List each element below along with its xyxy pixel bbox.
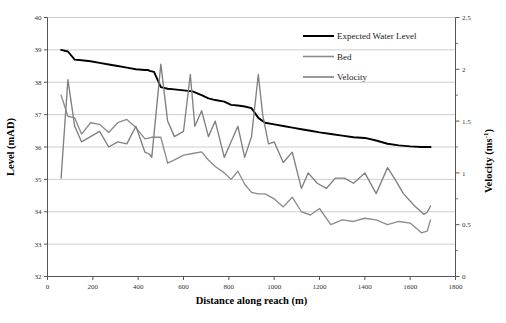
chart-figure: 32333435363738394000.511.522.50200400600… bbox=[0, 0, 506, 323]
ytick-label-40: 40 bbox=[35, 14, 43, 22]
ytick-label-32: 32 bbox=[35, 273, 43, 281]
ytick-label-39: 39 bbox=[35, 46, 43, 54]
y2tick-label-1.5: 1.5 bbox=[462, 118, 471, 126]
y-axis-title: Level (mAD) bbox=[5, 117, 17, 176]
xtick-label-400: 400 bbox=[133, 283, 144, 291]
y2-axis-title: Velocity (ms-1) bbox=[482, 128, 495, 193]
xtick-label-1600: 1600 bbox=[403, 283, 418, 291]
ytick-label-33: 33 bbox=[35, 241, 43, 249]
xtick-label-200: 200 bbox=[88, 283, 99, 291]
xtick-label-1000: 1000 bbox=[267, 283, 282, 291]
y2tick-label-0: 0 bbox=[462, 273, 466, 281]
x-axis-title: Distance along reach (m) bbox=[196, 295, 308, 307]
y2tick-label-2.5: 2.5 bbox=[462, 14, 471, 22]
chart-canvas: 32333435363738394000.511.522.50200400600… bbox=[0, 0, 506, 323]
xtick-label-0: 0 bbox=[46, 283, 50, 291]
legend-label-bed: Bed bbox=[337, 52, 352, 62]
xtick-label-1400: 1400 bbox=[358, 283, 373, 291]
y2tick-label-2: 2 bbox=[462, 66, 466, 74]
ytick-label-38: 38 bbox=[35, 79, 43, 87]
y2tick-label-1: 1 bbox=[462, 170, 466, 178]
xtick-label-600: 600 bbox=[178, 283, 189, 291]
ytick-label-37: 37 bbox=[35, 111, 43, 119]
ytick-label-34: 34 bbox=[35, 208, 43, 216]
legend-label-expected-water-level: Expected Water Level bbox=[337, 31, 417, 41]
xtick-label-1800: 1800 bbox=[449, 283, 464, 291]
y2tick-label-0.5: 0.5 bbox=[462, 221, 471, 229]
ytick-label-36: 36 bbox=[35, 144, 43, 152]
xtick-label-1200: 1200 bbox=[313, 283, 328, 291]
ytick-label-35: 35 bbox=[35, 176, 43, 184]
xtick-label-800: 800 bbox=[224, 283, 235, 291]
legend-label-velocity: Velocity bbox=[337, 72, 367, 82]
